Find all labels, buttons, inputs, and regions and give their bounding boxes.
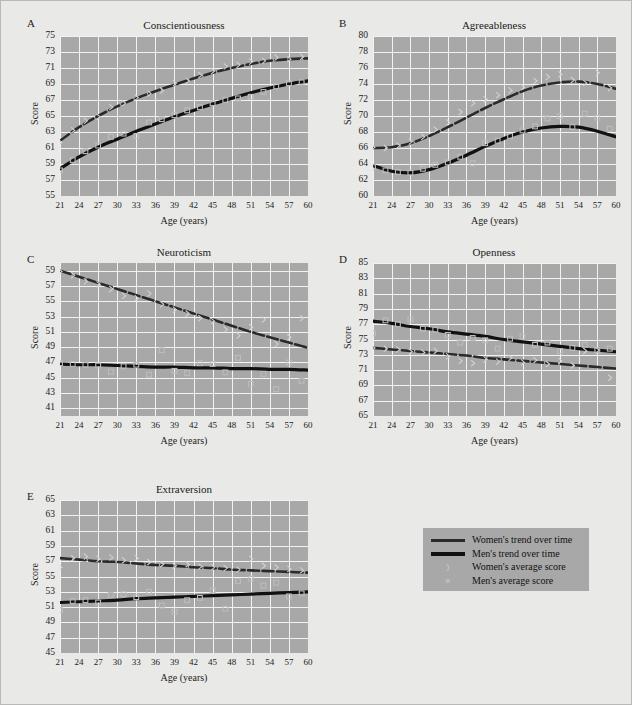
y-tick-label: 59 bbox=[30, 266, 55, 276]
y-tick-label: 57 bbox=[30, 281, 55, 291]
men-average-marker bbox=[558, 349, 563, 354]
legend-entry-3: ⟩Women's average score bbox=[431, 562, 566, 573]
men-average-marker bbox=[470, 161, 475, 166]
men-trend-line bbox=[373, 126, 616, 173]
x-tick-label: 60 bbox=[294, 658, 322, 667]
y-tick-label: 49 bbox=[30, 617, 55, 627]
x-tick-label: 60 bbox=[602, 201, 630, 210]
women-average-marker bbox=[135, 555, 139, 561]
women-average-marker bbox=[446, 119, 450, 125]
y-tick-label: 83 bbox=[343, 273, 368, 283]
y-tick-label: 59 bbox=[30, 159, 55, 169]
series-layer bbox=[373, 36, 616, 196]
series-layer bbox=[60, 263, 308, 416]
men-trend-swatch bbox=[431, 552, 465, 556]
women-average-marker bbox=[109, 554, 113, 560]
y-tick-label: 65 bbox=[30, 495, 55, 505]
men-average-marker bbox=[172, 368, 177, 373]
y-axis-title: Score bbox=[29, 74, 40, 154]
men-average-marker bbox=[483, 338, 488, 343]
women-average-marker bbox=[459, 358, 463, 364]
y-tick-label: 85 bbox=[343, 258, 368, 268]
x-axis-title: Age (years) bbox=[435, 435, 555, 446]
y-tick-label: 57 bbox=[30, 175, 55, 185]
x-axis-title: Age (years) bbox=[124, 435, 244, 446]
y-tick-label: 64 bbox=[343, 159, 368, 169]
legend-entry-4: ■Men's average score bbox=[431, 576, 553, 587]
x-tick-label: 60 bbox=[602, 421, 630, 430]
panel-letter-c: C bbox=[27, 253, 35, 265]
y-tick-label: 78 bbox=[343, 47, 368, 57]
figure-canvas: AConscientiousness2124273033363942454851… bbox=[0, 0, 632, 705]
y-tick-label: 41 bbox=[30, 403, 55, 413]
y-axis-title: Score bbox=[29, 297, 40, 377]
men-average-marker bbox=[287, 594, 292, 599]
men-average-marker bbox=[520, 334, 525, 339]
panel-title-c: Neuroticism bbox=[94, 246, 274, 258]
women-trend-line bbox=[373, 82, 616, 148]
y-tick-label: 55 bbox=[30, 191, 55, 201]
women-marker-swatch: ⟩ bbox=[431, 563, 465, 572]
y-tick-label: 60 bbox=[343, 191, 368, 201]
women-trend-line bbox=[60, 58, 308, 140]
men-average-marker bbox=[185, 371, 190, 376]
y-tick-label: 43 bbox=[30, 388, 55, 398]
women-average-marker bbox=[546, 74, 550, 80]
y-tick-label: 71 bbox=[30, 63, 55, 73]
y-axis-title: Score bbox=[342, 297, 353, 377]
x-axis-title: Age (years) bbox=[124, 215, 244, 226]
panel-title-b: Agreeableness bbox=[404, 19, 584, 31]
panel-letter-a: A bbox=[27, 17, 35, 29]
women-average-marker bbox=[173, 80, 177, 86]
men-average-marker bbox=[121, 592, 126, 597]
legend-box: Women's trend over timeMen's trend over … bbox=[423, 528, 589, 591]
men-average-marker bbox=[185, 598, 190, 603]
men-average-marker bbox=[274, 387, 279, 392]
women-average-marker bbox=[484, 356, 488, 362]
panel-title-d: Openness bbox=[404, 246, 584, 258]
men-average-marker bbox=[108, 134, 113, 139]
women-average-marker bbox=[224, 327, 228, 333]
men-average-marker bbox=[236, 355, 241, 360]
plot-area-e bbox=[60, 500, 308, 653]
women-average-marker bbox=[60, 564, 62, 570]
plot-area-d bbox=[373, 263, 616, 416]
women-trend-line bbox=[60, 558, 308, 573]
men-average-marker bbox=[108, 369, 113, 374]
women-average-marker bbox=[484, 96, 488, 102]
men-average-marker bbox=[210, 362, 215, 367]
men-average-marker bbox=[159, 348, 164, 353]
panel-title-a: Conscientiousness bbox=[94, 19, 274, 31]
women-average-marker bbox=[186, 561, 190, 567]
men-average-marker bbox=[261, 372, 266, 377]
women-average-marker bbox=[236, 333, 240, 339]
x-axis-title: Age (years) bbox=[124, 672, 244, 683]
men-average-marker bbox=[545, 116, 550, 121]
men-average-marker bbox=[223, 606, 228, 611]
x-tick-label: 60 bbox=[294, 201, 322, 210]
y-tick-label: 75 bbox=[30, 31, 55, 41]
series-layer bbox=[373, 263, 616, 416]
men-average-marker bbox=[248, 576, 253, 581]
y-tick-label: 63 bbox=[30, 510, 55, 520]
men-average-marker bbox=[495, 346, 500, 351]
men-average-marker bbox=[558, 114, 563, 119]
men-average-marker bbox=[236, 579, 241, 584]
y-tick-label: 47 bbox=[30, 633, 55, 643]
men-average-marker bbox=[223, 370, 228, 375]
men-average-marker bbox=[607, 126, 612, 131]
men-average-marker bbox=[60, 608, 62, 613]
women-average-markers bbox=[60, 54, 304, 146]
men-average-marker bbox=[159, 603, 164, 608]
y-axis-title: Score bbox=[29, 534, 40, 614]
men-average-marker bbox=[248, 381, 253, 386]
men-average-markers bbox=[60, 80, 304, 173]
women-average-marker bbox=[287, 334, 291, 340]
men-trend-line bbox=[60, 592, 308, 603]
men-average-marker bbox=[287, 360, 292, 365]
women-average-marker bbox=[275, 564, 279, 570]
plot-area-c bbox=[60, 263, 308, 416]
legend-label: Women's trend over time bbox=[472, 535, 572, 546]
men-average-marker bbox=[134, 134, 139, 139]
men-average-marker bbox=[248, 94, 253, 99]
